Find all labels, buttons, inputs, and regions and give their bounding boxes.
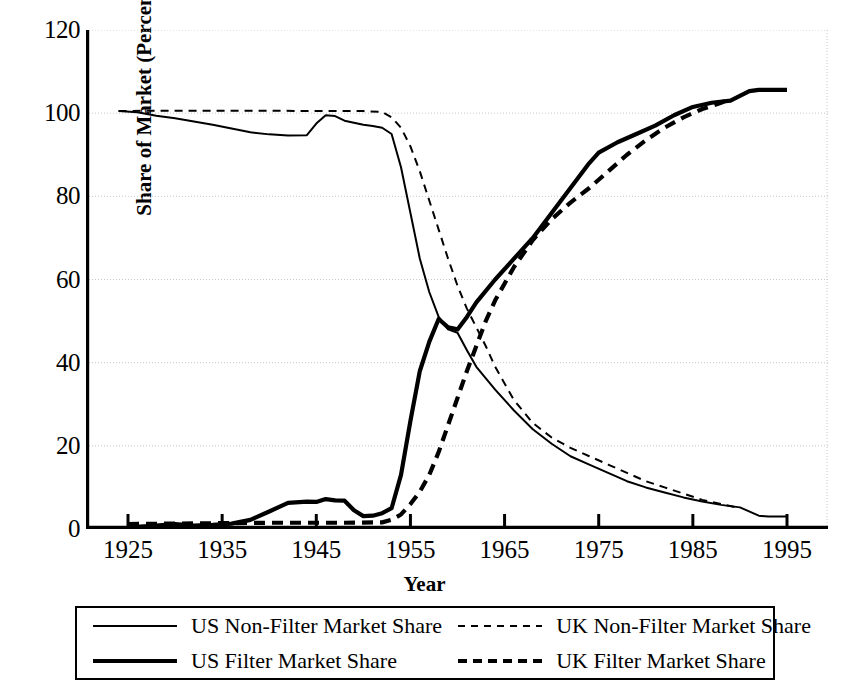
y-tick-label: 100 <box>2 100 80 125</box>
x-tick-label: 1985 <box>648 537 738 562</box>
chart-legend: US Non-Filter Market ShareUK Non-Filter … <box>75 606 775 680</box>
series-line-3 <box>128 99 731 524</box>
x-tick-label: 1945 <box>271 537 361 562</box>
x-tick-label: 1955 <box>365 537 455 562</box>
chart-plot-area: 020406080100120 Share of Market (Percent… <box>0 0 849 600</box>
y-tick-label: 80 <box>2 183 80 208</box>
x-axis-title: Year <box>0 572 849 597</box>
y-axis-tick-labels: 020406080100120 <box>0 0 80 560</box>
legend-swatch-icon <box>456 619 544 633</box>
legend-item: US Non-Filter Market Share <box>77 608 442 643</box>
x-tick-label: 1965 <box>460 537 550 562</box>
y-tick-label: 120 <box>2 17 80 42</box>
legend-swatch-icon <box>91 654 179 668</box>
legend-swatch-icon <box>91 619 179 633</box>
legend-label: UK Non-Filter Market Share <box>556 613 811 639</box>
plot-canvas <box>86 30 828 529</box>
x-tick-label: 1935 <box>177 537 267 562</box>
x-tick-label: 1975 <box>554 537 644 562</box>
series-line-2 <box>128 90 787 527</box>
x-tick-label: 1995 <box>742 537 832 562</box>
y-tick-label: 40 <box>2 350 80 375</box>
series-svg <box>86 30 828 529</box>
y-tick-label: 20 <box>2 433 80 458</box>
series-line-0 <box>119 111 787 516</box>
legend-label: US Non-Filter Market Share <box>191 613 442 639</box>
chart-figure: 020406080100120 Share of Market (Percent… <box>0 0 849 689</box>
legend-item: UK Non-Filter Market Share <box>442 608 811 643</box>
legend-item: UK Filter Market Share <box>442 643 811 678</box>
legend-swatch-icon <box>456 654 544 668</box>
y-tick-label: 0 <box>2 516 80 541</box>
legend-label: UK Filter Market Share <box>556 648 766 674</box>
x-tick-label: 1925 <box>83 537 173 562</box>
legend-item: US Filter Market Share <box>77 643 442 678</box>
series-line-1 <box>119 111 740 509</box>
legend-grid: US Non-Filter Market ShareUK Non-Filter … <box>77 608 773 678</box>
legend-label: US Filter Market Share <box>191 648 397 674</box>
y-tick-label: 60 <box>2 267 80 292</box>
